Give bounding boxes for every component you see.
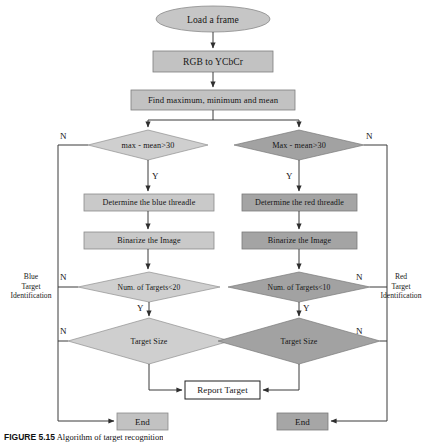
edge-label-red-size-no: N (356, 326, 363, 336)
edge-label-red-count-yes: Y (303, 303, 310, 313)
node-red-binarize-label: Binarize the Image (242, 233, 357, 248)
figure-caption-text: Algorithm of target recognition (55, 432, 163, 442)
branch-label-red: RedTargetIdentification (378, 272, 424, 301)
node-red-end-label: End (277, 414, 328, 429)
edge-label-blue-size-no: N (60, 326, 67, 336)
figure-caption-number: FIGURE 5.15 (4, 432, 55, 442)
edge-label-blue-count-yes: Y (137, 303, 144, 313)
node-blue-binarize-label: Binarize the Image (84, 233, 214, 248)
node-convert-label: RGB to YCbCr (153, 52, 273, 71)
edge-blue-size-to-report (149, 364, 182, 390)
node-report-label: Report Target (185, 382, 260, 398)
node-red-threshold-label: Determine the red threadle (242, 195, 357, 210)
node-blue-threshold-label: Determine the blue threadle (84, 195, 214, 210)
node-stats-label: Find maximum, minimum and mean (131, 91, 295, 109)
node-blue-size-label: Target Size (109, 334, 189, 348)
edge-label-blue-decision-yes: Y (152, 171, 159, 181)
figure-caption: FIGURE 5.15 Algorithm of target recognit… (4, 432, 163, 442)
node-red-count-label: Num. of Targets<10 (254, 280, 344, 294)
edge-label-red-decision-no: N (366, 131, 373, 141)
node-blue-end-label: End (117, 414, 168, 429)
node-blue-decision-label: max - mean>30 (101, 138, 195, 152)
branch-label-blue: BlueTargetIdentification (8, 272, 54, 301)
edge-label-blue-decision-no: N (60, 131, 67, 141)
node-blue-count-label: Num. of Targets<20 (104, 280, 194, 294)
node-red-decision-label: Max - mean>30 (252, 138, 346, 152)
edge-label-red-decision-yes: Y (286, 171, 293, 181)
edge-label-blue-count-no: N (60, 272, 67, 282)
node-red-size-label: Target Size (259, 334, 339, 348)
node-start-label: Load a frame (156, 11, 270, 28)
edge-label-red-count-no: N (356, 272, 363, 282)
edge-red-size-to-report (263, 364, 299, 390)
